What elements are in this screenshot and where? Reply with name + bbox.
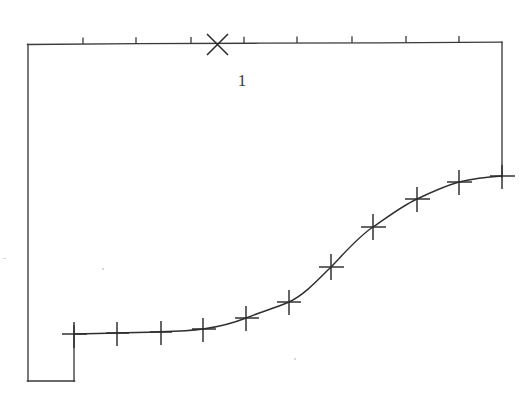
data-markers [62, 165, 515, 348]
data-marker-plus [150, 321, 172, 345]
data-marker-plus [361, 214, 386, 240]
data-marker-plus [235, 306, 259, 331]
plot-canvas: 1 [0, 0, 529, 403]
figure-root: 1 [0, 0, 529, 403]
frame-top-edge [28, 42, 503, 44]
data-curve-1 [74, 176, 502, 334]
data-marker-plus [277, 290, 301, 315]
curve-label-1: 1 [238, 71, 247, 90]
curve-identifier-x-icon [207, 34, 228, 55]
data-marker-plus [447, 170, 472, 195]
data-marker-plus [62, 322, 87, 348]
data-marker-plus [106, 322, 129, 346]
scan-speck [294, 358, 296, 360]
scan-speck [102, 268, 104, 270]
data-marker-plus [405, 187, 430, 212]
plot-frame [27, 42, 502, 381]
scan-speck [3, 258, 6, 259]
